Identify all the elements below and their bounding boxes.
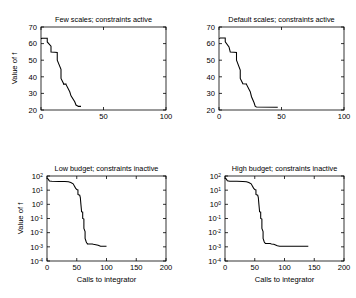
y-tick-label: 70 [29, 23, 37, 32]
x-tick-label: 150 [308, 263, 321, 272]
x-tick-label: 50 [73, 263, 81, 272]
y-tick-label: 101 [210, 186, 221, 195]
plot-svg: High budget; constraints inactive0501001… [178, 149, 356, 298]
y-tick-label: 102 [210, 172, 221, 181]
x-tick-label: 100 [160, 112, 173, 121]
y-tick-label: 10-3 [208, 243, 221, 252]
series-line [225, 178, 308, 246]
x-tick-label: 0 [223, 263, 227, 272]
plot-frame [41, 27, 166, 110]
y-tick-label: 20 [29, 106, 37, 115]
x-axis-label: Calls to integrator [77, 275, 137, 284]
chart-title: High budget; constraints inactive [232, 164, 337, 173]
chart-panel-default-scales: Default scales; constraints active050100… [178, 0, 356, 149]
x-tick-label: 50 [99, 112, 107, 121]
chart-title: Few scales; constraints active [55, 15, 152, 24]
x-tick-label: 200 [338, 263, 351, 272]
series-line [41, 38, 81, 106]
y-tick-label: 50 [207, 56, 215, 65]
y-tick-label: 10-4 [208, 257, 221, 266]
x-tick-label: 200 [160, 263, 173, 272]
y-axis-label: Value of f [16, 202, 25, 234]
x-tick-label: 50 [277, 112, 285, 121]
plot-svg: Few scales; constraints active0501002030… [0, 0, 178, 149]
chart-panel-high-budget: High budget; constraints inactive0501001… [178, 149, 356, 298]
y-tick-label: 30 [207, 89, 215, 98]
y-tick-label: 10-2 [208, 228, 221, 237]
y-tick-label: 100 [210, 200, 221, 209]
chart-title: Default scales; constraints active [228, 15, 334, 24]
x-tick-label: 0 [39, 112, 43, 121]
y-tick-label: 100 [32, 200, 43, 209]
plot-frame [47, 176, 166, 261]
x-tick-label: 100 [338, 112, 351, 121]
x-tick-label: 50 [251, 263, 259, 272]
plot-frame [225, 176, 344, 261]
y-tick-label: 20 [207, 106, 215, 115]
y-tick-label: 101 [32, 186, 43, 195]
y-tick-label: 10-4 [30, 257, 43, 266]
series-line [219, 38, 278, 107]
x-tick-label: 100 [100, 263, 113, 272]
x-tick-label: 0 [217, 112, 221, 121]
y-tick-label: 10-3 [30, 243, 43, 252]
y-tick-label: 10-1 [208, 214, 221, 223]
chart-title: Low budget; constraints inactive [55, 164, 159, 173]
x-tick-label: 0 [45, 263, 49, 272]
y-tick-label: 10-1 [30, 214, 43, 223]
y-tick-label: 102 [32, 172, 43, 181]
chart-panel-low-budget: Low budget; constraints inactive05010015… [0, 149, 178, 298]
y-tick-label: 60 [29, 39, 37, 48]
plot-svg: Default scales; constraints active050100… [178, 0, 356, 149]
y-tick-label: 60 [207, 39, 215, 48]
y-tick-label: 30 [29, 89, 37, 98]
y-tick-label: 10-2 [30, 228, 43, 237]
y-tick-label: 50 [29, 56, 37, 65]
y-tick-label: 40 [207, 73, 215, 82]
x-axis-label: Calls to integrator [255, 275, 315, 284]
plot-frame [219, 27, 344, 110]
x-tick-label: 150 [130, 263, 143, 272]
x-tick-label: 100 [278, 263, 291, 272]
y-tick-label: 40 [29, 73, 37, 82]
y-axis-label: Value of f [10, 52, 19, 84]
plot-svg: Low budget; constraints inactive05010015… [0, 149, 178, 298]
series-line [47, 178, 107, 246]
figure-canvas: Few scales; constraints active0501002030… [0, 0, 356, 298]
y-tick-label: 70 [207, 23, 215, 32]
chart-panel-few-scales: Few scales; constraints active0501002030… [0, 0, 178, 149]
